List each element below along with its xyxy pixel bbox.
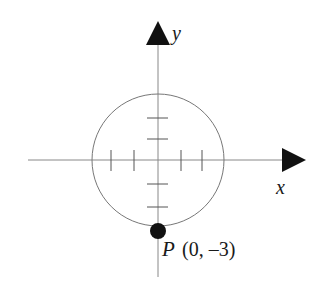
x-axis-arrow-icon — [282, 148, 306, 172]
y-axis-arrow-icon — [146, 21, 170, 45]
coordinate-plane: y x P (0, –3) — [0, 0, 319, 291]
point-name-label: P — [161, 237, 175, 261]
point-coords-label: (0, –3) — [182, 238, 235, 261]
y-axis-label: y — [170, 22, 181, 45]
diagram-canvas: y x P (0, –3) — [0, 0, 319, 291]
x-axis-label: x — [275, 176, 285, 198]
